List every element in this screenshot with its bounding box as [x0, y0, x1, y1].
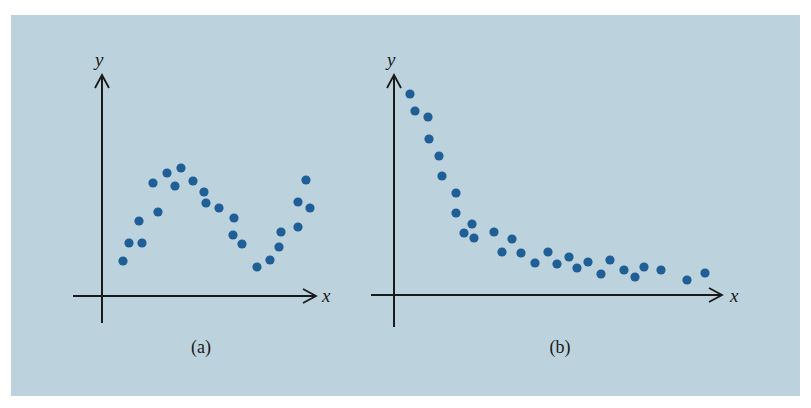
- data-point: [137, 238, 146, 247]
- y-axis-label-a: y: [93, 49, 104, 70]
- data-point: [605, 255, 614, 264]
- data-point: [201, 198, 210, 207]
- data-point: [543, 247, 552, 256]
- data-point: [274, 242, 283, 251]
- data-point: [237, 239, 246, 248]
- data-point: [552, 259, 561, 268]
- data-point: [301, 175, 310, 184]
- data-point: [153, 207, 162, 216]
- data-point: [124, 238, 133, 247]
- data-point: [199, 187, 208, 196]
- chart-a: y x (a): [73, 49, 331, 358]
- data-point: [530, 258, 539, 267]
- data-point: [293, 197, 302, 206]
- data-point: [148, 178, 157, 187]
- data-point: [630, 272, 639, 281]
- data-point: [489, 227, 498, 236]
- data-point: [265, 255, 274, 264]
- data-point: [170, 181, 179, 190]
- data-point: [423, 112, 432, 121]
- data-point: [459, 228, 468, 237]
- data-point: [229, 213, 238, 222]
- data-point: [118, 256, 127, 265]
- caption-b: (b): [550, 337, 571, 358]
- data-point: [424, 134, 433, 143]
- data-point: [176, 163, 185, 172]
- data-point: [619, 265, 628, 274]
- data-point: [214, 203, 223, 212]
- data-point: [469, 233, 478, 242]
- data-point: [305, 203, 314, 212]
- data-point: [276, 227, 285, 236]
- data-point: [134, 216, 143, 225]
- data-point: [451, 188, 460, 197]
- caption-a: (a): [191, 337, 211, 358]
- data-point: [467, 219, 476, 228]
- data-point: [228, 230, 237, 239]
- scatter-figure: y x (a) y x (b): [0, 0, 811, 408]
- y-axis-label-b: y: [385, 49, 396, 70]
- data-point: [252, 262, 261, 271]
- data-point: [516, 248, 525, 257]
- x-axis-label-a: x: [321, 285, 331, 306]
- data-point: [410, 106, 419, 115]
- data-points-b: [405, 89, 709, 284]
- data-points-a: [118, 163, 314, 271]
- x-axis-label-b: x: [729, 285, 739, 306]
- data-point: [700, 268, 709, 277]
- data-point: [639, 262, 648, 271]
- data-point: [656, 265, 665, 274]
- axes-b: [371, 75, 722, 327]
- axes-a: [73, 75, 316, 323]
- data-point: [293, 222, 302, 231]
- data-point: [437, 171, 446, 180]
- data-point: [405, 89, 414, 98]
- data-point: [507, 234, 516, 243]
- data-point: [188, 176, 197, 185]
- data-point: [434, 151, 443, 160]
- data-point: [596, 269, 605, 278]
- data-point: [583, 257, 592, 266]
- data-point: [497, 247, 506, 256]
- data-point: [451, 208, 460, 217]
- chart-b: y x (b): [371, 49, 739, 358]
- data-point: [572, 263, 581, 272]
- data-point: [162, 168, 171, 177]
- data-point: [682, 275, 691, 284]
- data-point: [564, 252, 573, 261]
